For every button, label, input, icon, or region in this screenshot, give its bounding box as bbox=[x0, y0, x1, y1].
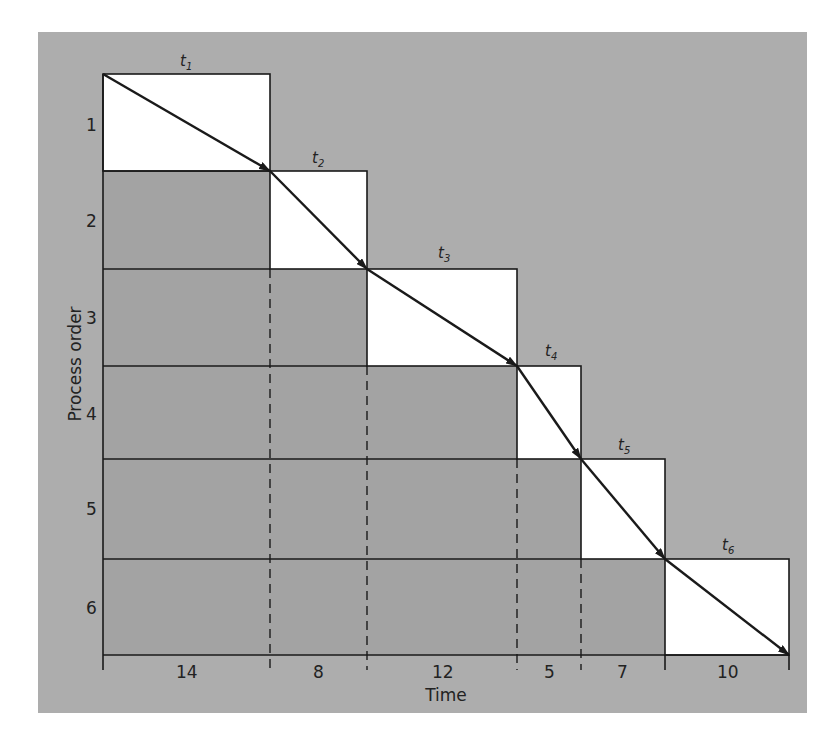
svg-text:10: 10 bbox=[717, 662, 739, 682]
svg-text:8: 8 bbox=[313, 662, 324, 682]
svg-text:7: 7 bbox=[617, 662, 628, 682]
svg-text:5: 5 bbox=[544, 662, 555, 682]
svg-text:12: 12 bbox=[432, 662, 454, 682]
svg-text:1: 1 bbox=[86, 115, 97, 135]
process-order-diagram: t1 t2 t3 t4 t5 t6 1 2 3 4 5 6 Process or… bbox=[0, 0, 837, 741]
y-axis-label: Process order bbox=[65, 306, 85, 421]
x-axis-label: Time bbox=[424, 685, 467, 705]
svg-text:5: 5 bbox=[86, 499, 97, 519]
svg-text:2: 2 bbox=[86, 211, 97, 231]
svg-text:4: 4 bbox=[86, 404, 97, 424]
svg-text:3: 3 bbox=[86, 308, 97, 328]
svg-text:14: 14 bbox=[176, 662, 198, 682]
svg-text:6: 6 bbox=[86, 598, 97, 618]
